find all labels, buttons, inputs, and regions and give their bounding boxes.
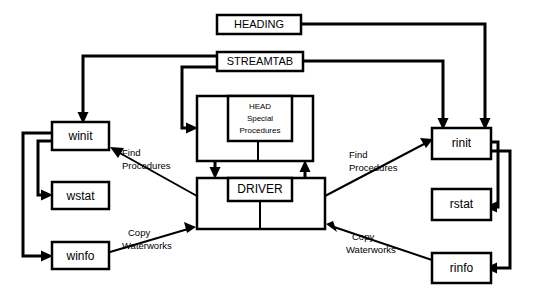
node-wstat[interactable]: wstat	[52, 182, 109, 209]
node-streamtab-label: STREAMTAB	[227, 55, 293, 67]
edge-label-copy-waterworks-right: Copy Waterworks	[346, 231, 396, 255]
node-head-special-procedures[interactable]: HEAD Special Procedures	[197, 96, 313, 161]
node-driver[interactable]: DRIVER	[197, 178, 325, 229]
node-winfo-label: winfo	[65, 249, 94, 263]
find-procedures-right-line-1: Find	[349, 149, 367, 160]
node-heading[interactable]: HEADING	[217, 15, 301, 34]
edge-heading-to-rinit	[301, 24, 491, 130]
diagram-canvas: HEADING STREAMTAB winit wstat winfo	[0, 0, 534, 299]
node-rinit[interactable]: rinit	[432, 128, 491, 159]
copy-waterworks-left-line-1: Copy	[128, 227, 150, 238]
node-rinfo-label: rinfo	[450, 261, 474, 275]
copy-waterworks-right-line-1: Copy	[352, 231, 374, 242]
driver-inner-label: DRIVER	[237, 182, 283, 196]
node-winfo[interactable]: winfo	[52, 242, 109, 269]
edge-streamtab-to-rinit	[303, 61, 449, 130]
node-winit[interactable]: winit	[52, 122, 109, 150]
edge-driver-to-head	[300, 160, 311, 178]
find-procedures-left-line-2: Procedures	[122, 160, 171, 171]
edge-head-to-driver	[210, 161, 221, 179]
copy-waterworks-left-line-2: Waterworks	[122, 240, 172, 251]
node-rstat-label: rstat	[450, 197, 474, 211]
node-rinit-label: rinit	[452, 136, 472, 150]
head-inner-line-1: HEAD	[249, 102, 271, 111]
find-procedures-right-line-2: Procedures	[349, 162, 398, 173]
edge-label-copy-waterworks-left: Copy Waterworks	[122, 227, 172, 251]
node-rstat[interactable]: rstat	[432, 189, 491, 220]
head-inner-line-2: Special	[247, 114, 273, 123]
node-wstat-label: wstat	[65, 189, 95, 203]
head-inner-line-3: Procedures	[240, 126, 281, 135]
diagram-svg: HEADING STREAMTAB winit wstat winfo	[0, 0, 534, 299]
node-winit-label: winit	[67, 129, 93, 143]
find-procedures-left-line-1: Find	[122, 147, 140, 158]
node-heading-label: HEADING	[234, 18, 284, 30]
node-rinfo[interactable]: rinfo	[432, 253, 491, 283]
copy-waterworks-right-line-2: Waterworks	[346, 244, 396, 255]
node-streamtab[interactable]: STREAMTAB	[217, 52, 303, 71]
